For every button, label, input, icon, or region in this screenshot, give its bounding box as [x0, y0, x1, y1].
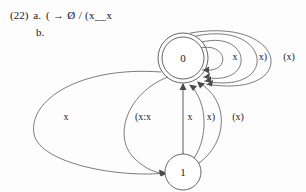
edge-label-colon-xx: (x:x — [135, 111, 151, 123]
arrowhead-1-to-0-curve-b — [197, 82, 205, 89]
node-0[interactable]: 0 — [158, 33, 208, 83]
edge-0-to-1-inner-left — [124, 77, 168, 173]
edge-label-left-x: x — [64, 111, 69, 122]
document-page: (22) a. ( → Ø / (x__x b. — [0, 0, 306, 192]
node-1[interactable]: 1 — [165, 154, 201, 190]
edge-label-self-loop-pxp: (x) — [283, 51, 295, 63]
edge-1-to-0-curve-b — [198, 82, 221, 163]
node-0-label: 0 — [180, 52, 186, 64]
arrowhead-1-to-0-straight — [180, 83, 187, 90]
edge-0-to-1-left-wide — [34, 71, 166, 174]
edge-label-self-loop-xrp: x) — [259, 51, 267, 63]
edge-label-up-xrp: x) — [207, 111, 215, 123]
arrowhead-1-to-0-curve-a — [189, 85, 197, 92]
edge-label-up-pxp: (x) — [232, 111, 244, 123]
node-1-label: 1 — [180, 166, 186, 178]
fsa-diagram: 0 1 x x) (x) x (x:x x x) (x) — [0, 0, 306, 192]
edge-label-up-x: x — [188, 111, 193, 122]
edge-label-self-loop-x: x — [233, 51, 238, 62]
